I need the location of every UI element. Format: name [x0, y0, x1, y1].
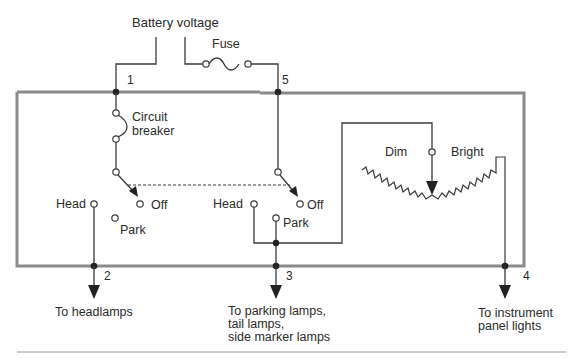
left-off-label: Off	[151, 198, 167, 212]
arrow-down-icon	[88, 285, 100, 299]
terminal-2-label: 2	[104, 269, 111, 283]
switch-housing	[17, 92, 524, 266]
parking-output-label: To parking lamps, tail lamps, side marke…	[228, 305, 330, 344]
fuse-terminal-icon	[203, 61, 209, 67]
terminal-3-label: 3	[286, 269, 293, 283]
battery-wire-left	[116, 37, 156, 92]
battery-voltage-label: Battery voltage	[132, 16, 219, 30]
arrow-down-icon	[270, 285, 282, 299]
bright-label: Bright	[451, 145, 484, 159]
left-park-label: Park	[120, 223, 146, 237]
terminal-5-label: 5	[282, 73, 289, 87]
right-head-label: Head	[213, 197, 243, 211]
headlamps-output-label: To headlamps	[55, 305, 133, 319]
left-head-label: Head	[56, 197, 86, 211]
circuit-breaker-icon	[118, 115, 127, 137]
terminal-1-label: 1	[127, 73, 134, 87]
terminal-4-label: 4	[523, 269, 530, 283]
dim-label: Dim	[385, 145, 407, 159]
fuse-icon	[209, 58, 239, 70]
rheostat-wiper-icon	[426, 181, 438, 195]
arrow-down-icon	[499, 285, 511, 299]
fuse-label: Fuse	[212, 37, 240, 51]
instrument-output-label: To instrument panel lights	[478, 307, 553, 333]
rheostat-icon	[362, 157, 505, 266]
right-park-label: Park	[283, 216, 309, 230]
circuit-breaker-label: Circuit breaker	[132, 110, 192, 138]
right-off-label: Off	[307, 198, 323, 212]
